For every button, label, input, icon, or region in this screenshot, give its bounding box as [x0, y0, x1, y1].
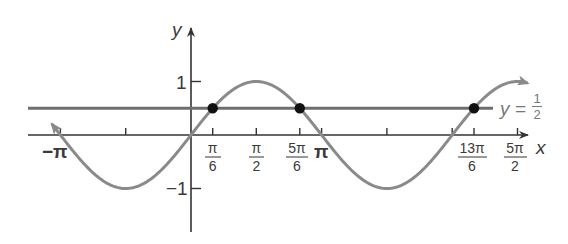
line-label-y-half: y = 1 2: [498, 91, 542, 122]
x-tick-pi: π: [314, 141, 329, 162]
svg-text:5π: 5π: [288, 140, 306, 156]
svg-text:π: π: [251, 140, 261, 156]
point-pi-over-6: [208, 103, 218, 113]
x-axis-label: x: [535, 137, 547, 158]
svg-text:π: π: [208, 140, 218, 156]
x-tick-5pi-over-2: 5π 2: [504, 140, 527, 174]
point-13pi-over-6: [469, 103, 479, 113]
sine-graph: y x 1 −1 −π π π 6 π 2 5π 6 13π 6 5π 2 y …: [0, 0, 568, 244]
svg-text:5π: 5π: [506, 140, 524, 156]
svg-text:13π: 13π: [459, 140, 485, 156]
svg-text:2: 2: [252, 158, 260, 174]
x-tick-pi-over-6: π 6: [205, 140, 221, 174]
svg-text:2: 2: [511, 158, 519, 174]
y-axis-label: y: [170, 19, 183, 40]
svg-text:6: 6: [468, 158, 476, 174]
svg-text:6: 6: [293, 158, 301, 174]
x-tick-neg-pi: −π: [42, 141, 68, 162]
x-tick-5pi-over-6: 5π 6: [286, 140, 308, 174]
line-label-den: 2: [533, 107, 540, 122]
svg-text:6: 6: [209, 158, 217, 174]
x-tick-13pi-over-6: 13π 6: [458, 140, 487, 174]
line-label-num: 1: [533, 91, 540, 106]
point-5pi-over-6: [295, 103, 305, 113]
x-tick-pi-over-2: π 2: [249, 140, 264, 174]
y-tick-neg1: −1: [166, 178, 188, 199]
y-tick-1: 1: [176, 72, 187, 93]
x-ticks: [60, 128, 517, 135]
line-label-prefix: y =: [498, 98, 526, 119]
